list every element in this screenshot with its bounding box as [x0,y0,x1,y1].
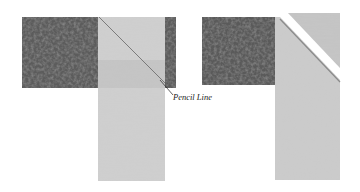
right-panel [202,13,340,180]
left-panel [22,17,176,181]
pencil-line-label: Pencil Line [173,92,212,102]
